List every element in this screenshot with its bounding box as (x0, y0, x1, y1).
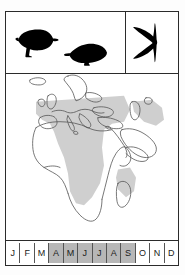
month-bar: J F M A M J J A S O N D (6, 240, 178, 265)
map-graphic (6, 74, 178, 240)
coast-scandinavia (64, 75, 87, 101)
month-label: A (111, 249, 117, 258)
month-label: J (83, 249, 88, 258)
month-cell-nov[interactable]: N (150, 243, 164, 263)
month-cell-feb[interactable]: F (20, 243, 34, 263)
month-cell-jan[interactable]: J (6, 243, 20, 263)
month-label: O (139, 249, 146, 258)
plate-frame: J F M A M J J A S O N D (5, 11, 179, 266)
perched-silhouettes-panel (6, 12, 126, 73)
perched-bird-right-icon (62, 38, 112, 66)
flying-bird-icon (132, 21, 178, 65)
month-label: D (168, 249, 175, 258)
month-label: F (24, 249, 30, 258)
month-cell-dec[interactable]: D (165, 243, 178, 263)
flying-silhouette-panel (126, 12, 178, 73)
month-cell-aug[interactable]: A (107, 243, 121, 263)
silhouette-strip (6, 12, 178, 74)
month-cell-jun[interactable]: J (78, 243, 92, 263)
month-label: A (53, 249, 59, 258)
perched-bird-left-icon (14, 24, 60, 58)
month-cell-may[interactable]: M (64, 243, 78, 263)
range-shading (36, 96, 164, 205)
month-cell-mar[interactable]: M (35, 243, 49, 263)
month-cell-jul[interactable]: J (93, 243, 107, 263)
coast-iceland (30, 78, 46, 85)
month-label: M (67, 249, 75, 258)
month-label: J (10, 249, 15, 258)
species-plate: J F M A M J J A S O N D (0, 0, 185, 275)
month-cell-oct[interactable]: O (136, 243, 150, 263)
distribution-map (6, 74, 178, 240)
coast-guinea (44, 166, 60, 167)
month-label: S (125, 249, 131, 258)
month-label: M (38, 249, 46, 258)
month-cell-sep[interactable]: S (121, 243, 135, 263)
month-label: N (154, 249, 161, 258)
month-cell-apr[interactable]: A (49, 243, 63, 263)
month-label: J (97, 249, 102, 258)
